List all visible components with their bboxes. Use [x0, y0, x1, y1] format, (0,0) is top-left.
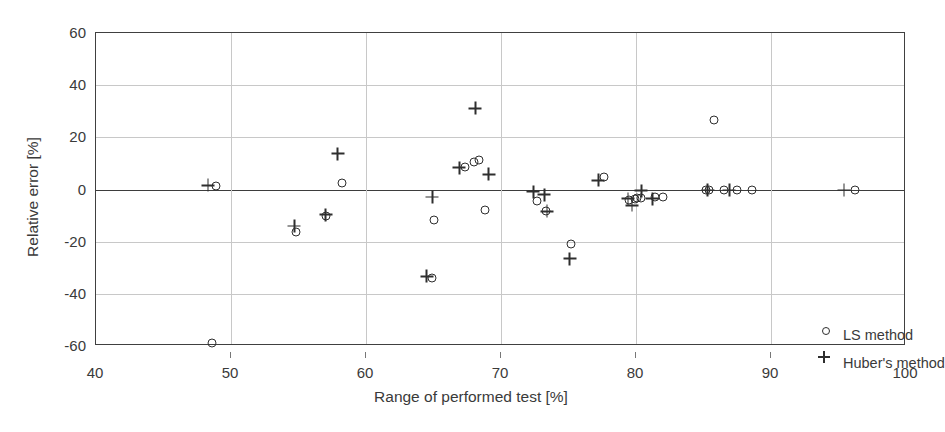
x-tick-mark [770, 352, 771, 358]
data-point-ls-method [659, 192, 668, 201]
x-tick-label: 100 [892, 365, 917, 380]
x-axis-tick-labels: 405060708090100 [0, 352, 942, 382]
data-point-ls-method [429, 215, 438, 224]
data-point-hubers-method [592, 174, 605, 187]
vertical-gridline [231, 33, 232, 344]
y-tick-label: 0 [78, 182, 86, 197]
legend-label-ls-method: LS method [843, 327, 913, 343]
data-point-hubers-method [646, 192, 659, 205]
data-point-hubers-method [331, 147, 344, 160]
y-tick-label: 60 [69, 25, 86, 40]
vertical-gridline [501, 33, 502, 344]
data-point-hubers-method [837, 184, 850, 197]
data-point-hubers-method [625, 199, 638, 212]
legend-item-ls-method: LS method [822, 321, 945, 349]
data-point-hubers-method [288, 220, 301, 233]
data-point-hubers-method [538, 188, 551, 201]
data-point-hubers-method [319, 208, 332, 221]
data-point-ls-method [850, 186, 859, 195]
data-point-hubers-method [701, 184, 714, 197]
x-tick-mark [635, 352, 636, 358]
data-point-ls-method [748, 186, 757, 195]
data-point-ls-method [567, 239, 576, 248]
x-tick-label: 50 [222, 365, 239, 380]
data-point-hubers-method [482, 168, 495, 181]
x-tick-label: 40 [87, 365, 104, 380]
y-tick-label: -40 [64, 286, 86, 301]
horizontal-gridline [96, 85, 904, 86]
data-point-hubers-method [426, 191, 439, 204]
y-tick-label: 20 [69, 129, 86, 144]
x-tick-label: 90 [762, 365, 779, 380]
data-point-ls-method [337, 178, 346, 187]
y-tick-label: -60 [64, 338, 86, 353]
x-tick-mark [230, 352, 231, 358]
plot-area: LS method Huber's method [95, 32, 905, 345]
horizontal-gridline [96, 137, 904, 138]
data-point-hubers-method [202, 179, 215, 192]
data-point-hubers-method [540, 205, 553, 218]
data-point-hubers-method [469, 102, 482, 115]
x-tick-label: 80 [627, 365, 644, 380]
data-point-ls-method [710, 116, 719, 125]
data-point-hubers-method [453, 161, 466, 174]
y-tick-label: -20 [64, 234, 86, 249]
vertical-gridline [771, 33, 772, 344]
circle-marker-icon [822, 328, 840, 342]
x-tick-mark [365, 352, 366, 358]
vertical-gridline [366, 33, 367, 344]
data-point-ls-method [208, 339, 217, 348]
x-tick-label: 70 [492, 365, 509, 380]
horizontal-gridline [96, 242, 904, 243]
y-tick-label: 40 [69, 77, 86, 92]
x-axis-label: Range of performed test [%] [0, 388, 942, 406]
data-point-ls-method [475, 155, 484, 164]
data-point-ls-method [480, 205, 489, 214]
data-point-hubers-method [563, 252, 576, 265]
x-tick-label: 60 [357, 365, 374, 380]
data-point-hubers-method [420, 270, 433, 283]
horizontal-gridline [96, 294, 904, 295]
data-point-hubers-method [723, 184, 736, 197]
x-tick-mark [500, 352, 501, 358]
